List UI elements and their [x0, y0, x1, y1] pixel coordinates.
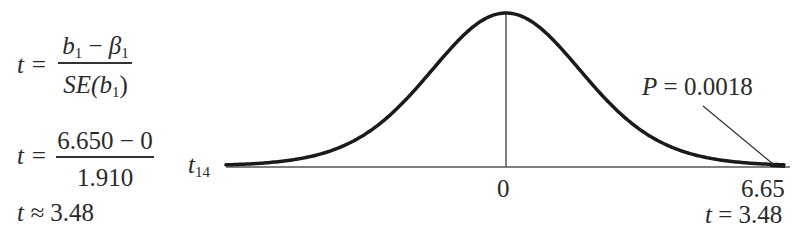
t-statistic-label: t = 3.48 — [705, 202, 782, 227]
p-value-label: P = 0.0018 — [642, 74, 753, 99]
observed-value-label: 6.65 — [741, 176, 785, 201]
p-value-pointer — [703, 106, 773, 164]
t-distribution-plot — [0, 0, 802, 231]
distribution-label: t14 — [188, 152, 210, 180]
center-tick-label: 0 — [497, 176, 510, 201]
